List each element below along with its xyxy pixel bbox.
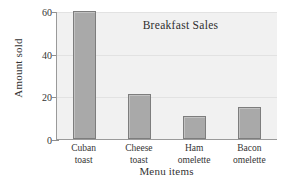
bar-ham-omelette[interactable]	[183, 116, 206, 139]
x-axis-label-line: Cheese	[111, 143, 166, 155]
x-axis-label-bacon-omelette: Baconomelette	[222, 143, 277, 166]
plot-area	[56, 12, 277, 140]
x-axis-label-line: Cuban	[56, 143, 111, 155]
x-axis-tick-labels: CubantoastCheesetoastHamomeletteBaconome…	[56, 143, 277, 166]
x-axis-label-line: Ham	[167, 143, 222, 155]
y-axis-title: Amount sold	[12, 13, 24, 123]
bar-series	[57, 12, 277, 139]
x-axis-label-cuban-toast: Cubantoast	[56, 143, 111, 166]
x-axis-label-ham-omelette: Hamomelette	[167, 143, 222, 166]
y-axis-tick-label-20: 20	[30, 92, 52, 103]
y-axis-tick-mark-0	[52, 140, 59, 141]
y-axis-tick-label-40: 40	[30, 49, 52, 60]
y-axis-tick-label-0: 0	[30, 135, 52, 146]
bar-slot	[167, 12, 222, 139]
bar-slot	[57, 12, 112, 139]
y-axis-tick-label-60: 60	[30, 7, 52, 18]
bar-slot	[222, 12, 277, 139]
chart-title: Breakfast Sales	[70, 19, 291, 31]
bar-cheese-toast[interactable]	[128, 94, 151, 139]
bar-chart: Amount sold 60 40 20 0 Breakfast Sales C…	[0, 0, 295, 182]
x-axis-label-line: Bacon	[222, 143, 277, 155]
x-axis-label-cheese-toast: Cheesetoast	[111, 143, 166, 166]
bar-bacon-omelette[interactable]	[238, 107, 261, 139]
bar-slot	[112, 12, 167, 139]
x-axis-title: Menu items	[56, 165, 277, 177]
